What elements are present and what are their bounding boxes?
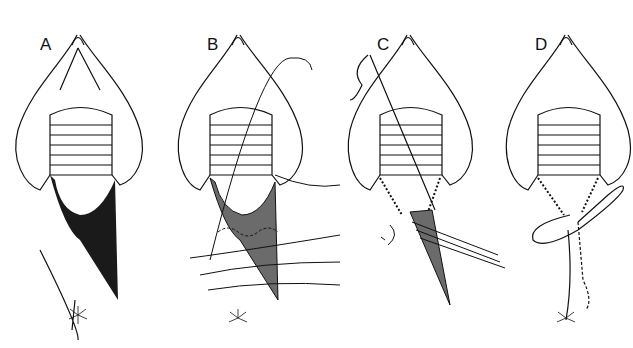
panel-c: C [340,0,505,348]
anatomy-drawing-d [498,0,633,348]
anatomy-drawing-c [340,0,505,348]
anatomy-drawing-b [170,0,335,348]
figure: A B [0,0,633,348]
anatomy-drawing-a [0,0,165,348]
panel-d: D [498,0,633,348]
panel-b: B [170,0,335,348]
panel-a: A [0,0,165,348]
